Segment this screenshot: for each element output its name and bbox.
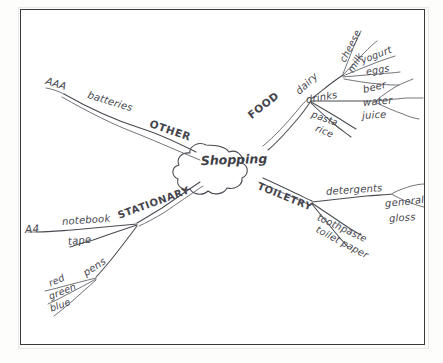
center-node-label: Shopping — [199, 151, 269, 168]
node-label-juice[interactable]: juice — [362, 109, 387, 121]
mindmap-sheet: Shopping OTHER batteries AAA FOOD dairy … — [0, 0, 443, 363]
node-label-gloss[interactable]: gloss — [389, 211, 416, 224]
node-label-a4[interactable]: A4 — [25, 222, 40, 235]
